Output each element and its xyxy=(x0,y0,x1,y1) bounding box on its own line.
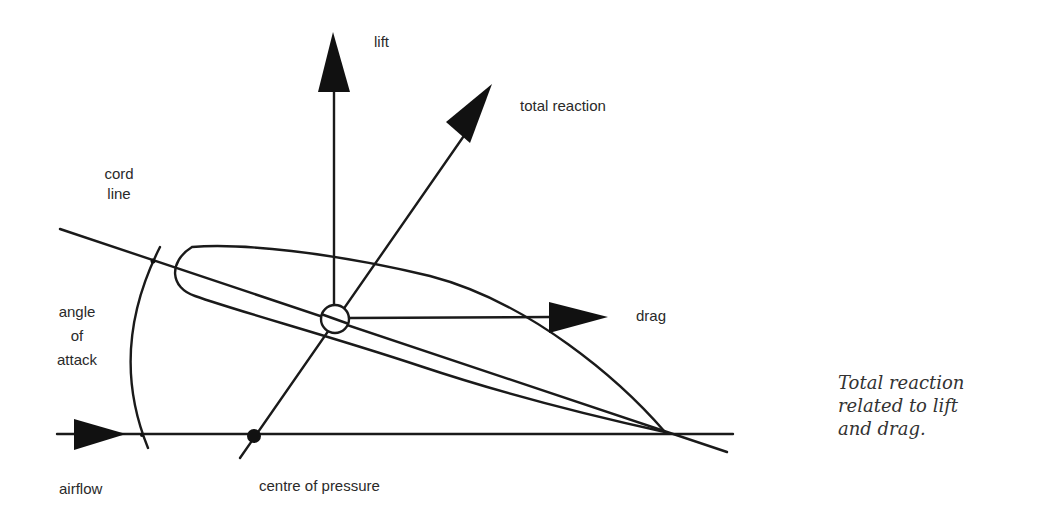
airflow-arrowhead-icon xyxy=(74,419,126,450)
airfoil-outline xyxy=(175,246,665,432)
label-angle-of-attack-2: of xyxy=(49,324,105,348)
drag-vector-line xyxy=(349,317,552,318)
drag-arrowhead-icon xyxy=(549,302,608,333)
caption-line-3: and drag. xyxy=(838,417,964,440)
caption-line-2: related to lift xyxy=(838,394,964,417)
centre-of-pressure-dot xyxy=(247,429,261,443)
cord-line xyxy=(60,229,727,452)
label-angle-of-attack-3: attack xyxy=(49,348,105,372)
caption-line-1: Total reaction xyxy=(838,371,964,394)
total-reaction-line xyxy=(240,130,468,458)
label-centre-of-pressure: centre of pressure xyxy=(259,476,380,496)
label-cord-line: cord line xyxy=(97,164,141,204)
figure-caption: Total reaction related to lift and drag. xyxy=(838,371,964,440)
label-cord-line-2: line xyxy=(97,184,141,204)
lift-arrowhead-icon xyxy=(318,32,350,92)
label-cord-line-1: cord xyxy=(97,164,141,184)
label-total-reaction: total reaction xyxy=(520,96,606,116)
total-reaction-arrowhead-icon xyxy=(446,84,492,143)
label-drag: drag xyxy=(636,306,666,326)
label-angle-of-attack-1: angle xyxy=(49,300,105,324)
label-angle-of-attack: angle of attack xyxy=(49,300,105,372)
angle-of-attack-arc xyxy=(131,247,160,448)
label-airflow: airflow xyxy=(59,479,102,499)
label-lift: lift xyxy=(374,32,389,52)
